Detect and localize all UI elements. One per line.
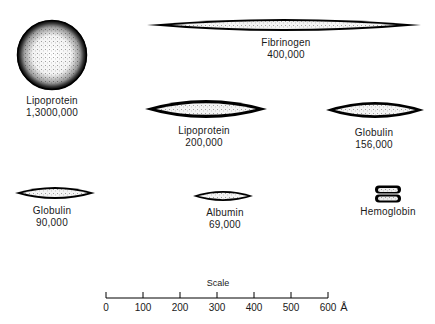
molecule-name: Lipoprotein [26, 95, 78, 107]
molecular-weight: 156,000 [355, 139, 393, 151]
molecular-weight: 400,000 [261, 49, 310, 61]
molecular-weight: 1,3000,000 [26, 107, 78, 119]
scale-bar [106, 292, 328, 298]
scale-tick-label: 200 [172, 302, 189, 314]
molecule-label: Hemoglobin [360, 206, 415, 218]
molecule-shape-fibrinogen [147, 19, 421, 31]
molecule-label: Albumin69,000 [206, 207, 244, 231]
molecular-weight: 90,000 [33, 217, 71, 229]
molecule-name: Lipoprotein [178, 125, 230, 137]
molecule-name: Globulin [33, 205, 71, 217]
diagram-canvas [0, 0, 435, 324]
molecule-shape-globulin [15, 187, 95, 199]
scale-unit: Å [340, 301, 347, 313]
molecule-name: Globulin [355, 127, 393, 139]
molecule-label: Fibrinogen400,000 [261, 37, 310, 61]
molecule-label: Globulin90,000 [33, 205, 71, 229]
molecule-shape-lipoprotein [145, 100, 267, 118]
scale-tick-label: 500 [283, 302, 300, 314]
molecular-weight: 200,000 [178, 137, 230, 149]
molecule-name: Albumin [206, 207, 244, 219]
scale-tick-label: 300 [209, 302, 226, 314]
molecule-label: Lipoprotein1,3000,000 [26, 95, 78, 119]
molecule-name: Hemoglobin [360, 206, 415, 218]
molecule-label: Lipoprotein200,000 [178, 125, 230, 149]
molecule-shape-albumin [193, 191, 253, 201]
molecule-shape-hemoglobin [375, 186, 401, 203]
molecule-shape-globulin [326, 102, 424, 118]
scale-tick-label: 600 [320, 302, 337, 314]
scale-tick-label: 100 [135, 302, 152, 314]
scale-title: Scale [207, 278, 230, 288]
molecule-shape-lipoprotein [17, 20, 87, 90]
molecular-weight: 69,000 [206, 219, 244, 231]
scale-tick-label: 400 [246, 302, 263, 314]
scale-tick-label: 0 [103, 302, 109, 314]
molecule-label: Globulin156,000 [355, 127, 393, 151]
molecule-name: Fibrinogen [261, 37, 310, 49]
